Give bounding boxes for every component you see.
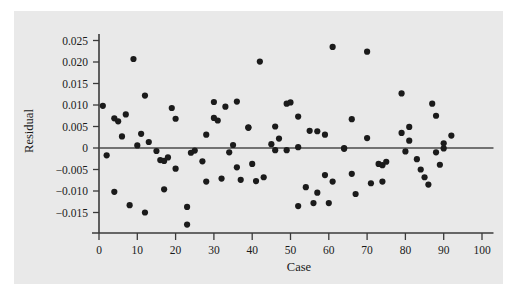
data-point bbox=[433, 113, 439, 119]
y-tick-label: −0.005 bbox=[56, 164, 89, 176]
data-point bbox=[127, 202, 133, 208]
data-point bbox=[364, 135, 370, 141]
data-point bbox=[184, 204, 190, 210]
data-point bbox=[161, 186, 167, 192]
data-point bbox=[349, 116, 355, 122]
data-point bbox=[418, 166, 424, 172]
data-point bbox=[218, 175, 224, 181]
data-point bbox=[173, 166, 179, 172]
x-tick-label: 10 bbox=[132, 244, 144, 256]
data-point bbox=[322, 172, 328, 178]
y-tick-label: 0.015 bbox=[62, 78, 88, 90]
data-point bbox=[421, 174, 427, 180]
y-tick-label: 0.005 bbox=[62, 121, 88, 133]
x-tick-label: 100 bbox=[473, 244, 491, 256]
data-point bbox=[276, 135, 282, 141]
y-tick-label: 0.025 bbox=[62, 35, 88, 47]
data-point bbox=[353, 191, 359, 197]
data-point bbox=[406, 124, 412, 130]
data-point bbox=[406, 138, 412, 144]
data-point bbox=[257, 58, 263, 64]
data-point bbox=[437, 162, 443, 168]
data-point bbox=[364, 49, 370, 55]
y-tick-label: −0.010 bbox=[56, 185, 89, 197]
data-point bbox=[272, 123, 278, 129]
y-tick-label: 0.010 bbox=[62, 99, 88, 111]
data-point bbox=[272, 147, 278, 153]
data-point bbox=[104, 152, 110, 158]
x-tick-label: 90 bbox=[438, 244, 450, 256]
figure-container: 0.0250.0200.0150.0100.0050−0.005−0.010−0… bbox=[0, 0, 517, 299]
data-point bbox=[211, 99, 217, 105]
data-point bbox=[295, 203, 301, 209]
data-point bbox=[203, 132, 209, 138]
data-point bbox=[379, 178, 385, 184]
data-point bbox=[448, 132, 454, 138]
x-tick-label: 30 bbox=[208, 244, 220, 256]
data-point bbox=[326, 200, 332, 206]
data-point bbox=[383, 159, 389, 165]
x-axis-title: Case bbox=[287, 260, 312, 274]
y-axis-title: Residual bbox=[22, 109, 36, 153]
x-tick-label: 70 bbox=[361, 244, 373, 256]
x-tick-label: 50 bbox=[285, 244, 297, 256]
data-point bbox=[349, 171, 355, 177]
data-point bbox=[215, 117, 221, 123]
data-point bbox=[314, 128, 320, 134]
data-point bbox=[441, 145, 447, 151]
data-point bbox=[238, 177, 244, 183]
data-point bbox=[284, 147, 290, 153]
data-point bbox=[100, 103, 106, 109]
data-point bbox=[111, 189, 117, 195]
data-point bbox=[287, 99, 293, 105]
y-tick-marks bbox=[93, 41, 99, 213]
data-point bbox=[310, 200, 316, 206]
data-point bbox=[295, 114, 301, 120]
data-point bbox=[398, 90, 404, 96]
y-tick-label: −0.015 bbox=[56, 207, 89, 219]
data-point bbox=[295, 144, 301, 150]
data-point bbox=[307, 128, 313, 134]
data-point bbox=[134, 142, 140, 148]
data-point bbox=[425, 181, 431, 187]
data-point bbox=[115, 118, 121, 124]
x-tick-labels: 0102030405060708090100 bbox=[96, 244, 491, 256]
data-point bbox=[199, 158, 205, 164]
data-point bbox=[138, 131, 144, 137]
data-point bbox=[429, 101, 435, 107]
data-point bbox=[398, 130, 404, 136]
data-point bbox=[341, 146, 347, 152]
y-tick-label: 0 bbox=[82, 142, 88, 154]
data-point bbox=[234, 98, 240, 104]
data-point bbox=[203, 178, 209, 184]
x-tick-label: 60 bbox=[323, 244, 335, 256]
data-point bbox=[314, 190, 320, 196]
data-point bbox=[153, 148, 159, 154]
data-point bbox=[234, 164, 240, 170]
data-point bbox=[142, 209, 148, 215]
data-point bbox=[226, 149, 232, 155]
data-point bbox=[433, 149, 439, 155]
data-point bbox=[119, 133, 125, 139]
data-point bbox=[230, 142, 236, 148]
x-tick-label: 20 bbox=[170, 244, 182, 256]
data-point bbox=[130, 56, 136, 62]
data-point bbox=[414, 156, 420, 162]
x-tick-label: 80 bbox=[400, 244, 412, 256]
scatter-plot: 0.0250.0200.0150.0100.0050−0.005−0.010−0… bbox=[0, 0, 517, 299]
data-point bbox=[322, 132, 328, 138]
data-point bbox=[173, 116, 179, 122]
data-points-layer bbox=[100, 44, 455, 228]
x-tick-label: 0 bbox=[96, 244, 102, 256]
x-tick-marks bbox=[99, 233, 482, 240]
data-point bbox=[268, 141, 274, 147]
data-point bbox=[253, 178, 259, 184]
data-point bbox=[245, 125, 251, 131]
data-point bbox=[368, 180, 374, 186]
y-tick-labels: 0.0250.0200.0150.0100.0050−0.005−0.010−0… bbox=[56, 35, 89, 219]
data-point bbox=[261, 174, 267, 180]
x-tick-label: 40 bbox=[246, 244, 258, 256]
data-point bbox=[192, 147, 198, 153]
data-point bbox=[184, 221, 190, 227]
data-point bbox=[123, 111, 129, 117]
